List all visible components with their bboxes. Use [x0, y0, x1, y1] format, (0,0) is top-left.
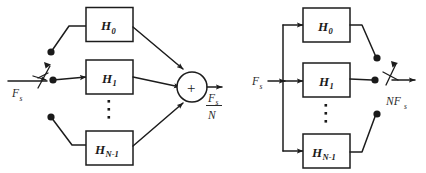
left-block-1-sublabel: 1 [113, 78, 117, 88]
right-wire-block2-to-contact [350, 114, 376, 152]
right-block-0-label: H [317, 19, 329, 34]
left-output-numerator-sub: s [216, 98, 219, 107]
left-switch-arrow-head [44, 62, 51, 69]
figure-canvas: H 0 H 1 H N-1 F s F s N + H 0 H 1 H N-1 … [0, 0, 426, 173]
right-output-sublabel: s [404, 102, 407, 111]
right-block-1-label: H [318, 74, 330, 89]
left-block-2-label: H [94, 142, 106, 157]
left-output-denominator: N [207, 109, 217, 121]
right-commutator-switch[interactable] [383, 61, 398, 85]
left-wire-block0-to-sum [133, 27, 183, 69]
right-input-sublabel: s [260, 82, 263, 91]
left-wire-block2-to-sum [133, 103, 183, 146]
left-input-sublabel: s [20, 94, 23, 103]
left-block-2-sublabel: N-1 [105, 149, 119, 159]
left-wire-to-block-0 [51, 26, 86, 52]
right-block-2[interactable] [303, 134, 350, 168]
left-commutator-switch[interactable] [33, 62, 51, 88]
right-wire-block1-to-contact [350, 79, 372, 80]
left-block-2[interactable] [86, 131, 133, 165]
right-block-1-sublabel: 1 [330, 81, 334, 91]
left-block-0-label: H [100, 18, 112, 33]
right-block-2-sublabel: N-1 [322, 152, 336, 162]
left-wire-block1-to-sum [133, 77, 180, 87]
sum-plus-symbol: + [187, 80, 195, 96]
right-wire-block0-to-contact [350, 25, 376, 57]
left-switch-tick-a [38, 73, 48, 78]
left-block-1-label: H [101, 71, 113, 86]
right-contact-node-0[interactable] [373, 54, 380, 61]
left-wire-to-block-1 [53, 77, 86, 80]
right-output-label: NF [385, 95, 402, 107]
right-diagram-group [268, 8, 415, 168]
right-contact-node-2[interactable] [373, 110, 380, 117]
left-wire-to-block-2 [51, 117, 86, 145]
right-contact-node-1[interactable] [371, 76, 378, 83]
right-block-2-label: H [311, 145, 323, 160]
left-ellipsis [108, 100, 111, 119]
right-ellipsis [325, 104, 328, 123]
right-switch-tick-b [383, 72, 398, 80]
